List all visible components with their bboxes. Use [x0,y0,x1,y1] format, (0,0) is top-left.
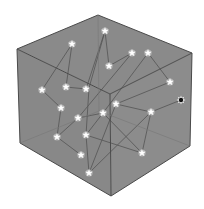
cube-graphic [0,0,204,209]
black-node-icon [177,96,186,105]
cube-diagram [0,0,204,209]
